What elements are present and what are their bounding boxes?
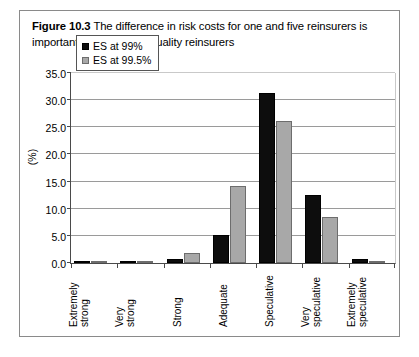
- x-axis-tick-label: Veryspeculative: [302, 267, 348, 329]
- bar-group: [210, 73, 256, 263]
- legend-swatch-icon: [82, 57, 89, 64]
- chart-legend: ES at 99%ES at 99.5%: [76, 35, 159, 71]
- bar[interactable]: [259, 93, 275, 263]
- x-axis-tick-labels: ExtremelystrongVerystrongStrongAdequateS…: [71, 267, 395, 329]
- bar[interactable]: [230, 186, 246, 263]
- bar[interactable]: [322, 217, 338, 263]
- bar[interactable]: [120, 261, 136, 263]
- x-axis-tick-label: Strong: [164, 267, 210, 329]
- y-axis-tick-marks: [20, 73, 72, 263]
- x-axis-tick-label-text: Verystrong: [114, 267, 136, 327]
- x-axis-tick-label: Extremelystrong: [71, 267, 117, 329]
- bar[interactable]: [276, 121, 292, 263]
- bar[interactable]: [74, 261, 90, 263]
- legend-label: ES at 99%: [93, 40, 143, 52]
- bar-group: [164, 73, 210, 263]
- bar[interactable]: [213, 235, 229, 263]
- bars-layer: [71, 73, 395, 263]
- bar[interactable]: [137, 261, 153, 263]
- legend-label: ES at 99.5%: [93, 54, 151, 66]
- bar-group: [256, 73, 302, 263]
- x-axis-tick-label: Verystrong: [117, 267, 163, 329]
- bar[interactable]: [369, 261, 385, 263]
- x-axis-tick-label-text: Speculative: [264, 267, 275, 327]
- x-axis-tick-label-text: Extremelystrong: [68, 267, 90, 327]
- bar[interactable]: [167, 259, 183, 263]
- x-axis-tick-label-text: Strong: [172, 267, 183, 327]
- x-axis-tick-label: Extremelyspeculative: [349, 267, 395, 329]
- figure-frame: Figure 10.3 The difference in risk costs…: [19, 10, 400, 337]
- bar-group: [302, 73, 348, 263]
- bar-group: [117, 73, 163, 263]
- legend-item[interactable]: ES at 99%: [82, 39, 151, 53]
- bar[interactable]: [184, 253, 200, 263]
- bar-group: [349, 73, 395, 263]
- legend-swatch-icon: [82, 43, 89, 50]
- bar-group: [71, 73, 117, 263]
- x-axis-tick-label: Speculative: [256, 267, 302, 329]
- x-axis-tick-label-text: Extremelyspeculative: [346, 267, 368, 327]
- x-axis-tick-label: Adequate: [210, 267, 256, 329]
- bar[interactable]: [91, 261, 107, 263]
- bar[interactable]: [352, 259, 368, 263]
- figure-number: Figure 10.3: [32, 20, 91, 32]
- legend-item[interactable]: ES at 99.5%: [82, 53, 151, 67]
- x-axis-tick-label-text: Adequate: [218, 267, 229, 327]
- x-axis-tick-label-text: Veryspeculative: [300, 267, 322, 327]
- bar[interactable]: [305, 195, 321, 263]
